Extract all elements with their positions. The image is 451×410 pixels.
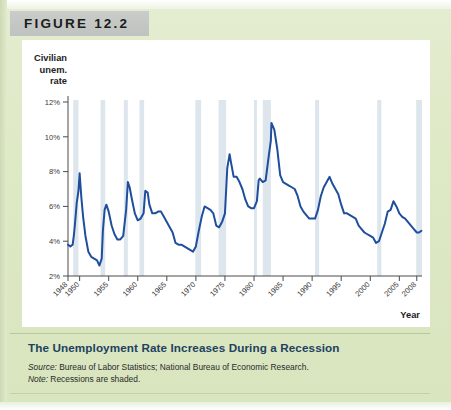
page-edge-left bbox=[0, 0, 7, 410]
x-tick-label: 1985 bbox=[266, 280, 284, 298]
x-axis-title: Year bbox=[400, 310, 420, 320]
recession-bands-group bbox=[73, 100, 422, 276]
x-tick-label: 2008 bbox=[400, 280, 418, 298]
x-tick-label: 2005 bbox=[382, 280, 400, 298]
caption-title: The Unemployment Rate Increases During a… bbox=[28, 341, 428, 354]
y-tick-labels-group: 12%10%8%6%4%2% bbox=[45, 98, 68, 281]
unemployment-line-chart: 12%10%8%6%4%2% 1948195019551960196519701… bbox=[22, 40, 430, 327]
plot-area: 12%10%8%6%4%2% 1948195019551960196519701… bbox=[22, 40, 430, 327]
footer-divider bbox=[10, 393, 430, 394]
chart-panel: Civilian unem. rate 12%10%8%6%4%2% 19481… bbox=[22, 40, 430, 327]
recession-band bbox=[139, 100, 144, 276]
y-tick-label: 8% bbox=[49, 167, 60, 176]
y-tick-label: 6% bbox=[49, 202, 60, 211]
figure-number-banner: FIGURE 12.2 bbox=[10, 11, 149, 36]
recession-band bbox=[195, 100, 201, 276]
x-tick-label: 1980 bbox=[237, 280, 255, 298]
figure-number-label: FIGURE 12.2 bbox=[24, 16, 129, 31]
y-tick-label: 12% bbox=[45, 98, 60, 107]
recession-band bbox=[377, 100, 381, 276]
x-tick-labels-group: 1948195019551960196519701975198019851990… bbox=[51, 276, 418, 298]
caption-divider bbox=[10, 333, 430, 334]
note-text: Recessions are shaded. bbox=[48, 374, 140, 384]
recession-band bbox=[263, 100, 271, 276]
caption-note: Note: Recessions are shaded. bbox=[28, 374, 428, 386]
recession-band bbox=[315, 100, 319, 276]
x-tick-label: 2000 bbox=[353, 280, 371, 298]
x-tick-label: 1970 bbox=[179, 280, 197, 298]
recession-band bbox=[219, 100, 227, 276]
figure-container: FIGURE 12.2 Civilian unem. rate 12%10%8%… bbox=[0, 0, 451, 410]
page-edge-top bbox=[0, 0, 451, 9]
y-tick-label: 4% bbox=[49, 237, 60, 246]
caption-source: Source: Bureau of Labor Statistics; Nati… bbox=[28, 362, 428, 374]
page-edge-bottom bbox=[0, 402, 451, 410]
unemployment-rate-line bbox=[68, 123, 421, 266]
x-tick-label: 1975 bbox=[208, 280, 226, 298]
recession-band bbox=[416, 100, 422, 276]
recession-band bbox=[254, 100, 257, 276]
x-tick-label: 1960 bbox=[121, 280, 139, 298]
axis-group bbox=[68, 96, 422, 276]
caption-block: The Unemployment Rate Increases During a… bbox=[28, 341, 428, 385]
source-text: Bureau of Labor Statistics; National Bur… bbox=[57, 362, 309, 372]
note-lead: Note: bbox=[28, 374, 48, 384]
x-tick-label: 1990 bbox=[295, 280, 313, 298]
x-tick-label: 1965 bbox=[150, 280, 168, 298]
source-lead: Source: bbox=[28, 362, 57, 372]
x-tick-label: 1955 bbox=[92, 280, 110, 298]
x-tick-label: 1995 bbox=[324, 280, 342, 298]
y-tick-label: 2% bbox=[49, 272, 60, 281]
y-tick-label: 10% bbox=[45, 133, 60, 142]
